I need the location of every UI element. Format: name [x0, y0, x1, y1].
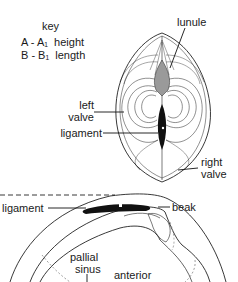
label-lunule: lunule	[177, 17, 206, 28]
lunule-region	[154, 60, 169, 96]
key-symbol: B - B₁	[21, 49, 49, 61]
label-left-valve-2: valve	[62, 112, 94, 123]
key-meaning: height	[54, 36, 84, 48]
key-symbol: A - A₁	[21, 36, 48, 48]
key-row-length: B - B₁ length	[21, 50, 85, 61]
key-title: key	[42, 21, 59, 32]
label-pallial-1: pallial	[70, 252, 98, 263]
label-right-valve-1: right	[201, 157, 222, 168]
ligament-top	[158, 104, 166, 150]
label-ligament-side: ligament	[2, 203, 44, 214]
label-anterior: anterior	[114, 270, 151, 281]
key-row-height: A - A₁ height	[21, 37, 84, 48]
label-beak: beak	[172, 202, 196, 213]
pallial-line	[42, 255, 70, 282]
label-pallial-2: sinus	[75, 264, 101, 275]
label-left-valve-1: left	[68, 100, 94, 111]
label-right-valve-2: valve	[201, 169, 227, 180]
key-meaning: length	[55, 49, 85, 61]
label-ligament-top: ligament	[48, 128, 102, 139]
ligament-side	[83, 204, 150, 214]
